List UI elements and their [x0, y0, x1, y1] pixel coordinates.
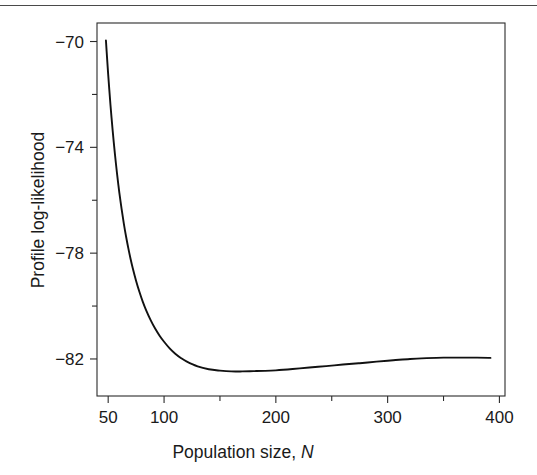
y-tick-label: −70	[55, 33, 84, 52]
plot-frame	[97, 23, 505, 396]
x-tick-label: 400	[485, 408, 513, 427]
plot-box	[97, 23, 505, 396]
y-tick-label: −82	[55, 350, 84, 369]
y-axis: −70−74−78−82	[55, 33, 97, 369]
x-tick-label: 200	[262, 408, 290, 427]
figure-root: −70−74−78−82 50100200300400 Profile log-…	[0, 0, 537, 475]
x-axis: 50100200300400	[99, 396, 514, 427]
y-axis-title: Profile log-likelihood	[28, 132, 48, 289]
x-axis-title: Population size, N	[172, 442, 314, 462]
x-tick-label: 100	[150, 408, 178, 427]
profile-loglikelihood-curve	[106, 40, 491, 371]
y-tick-label: −78	[55, 244, 84, 263]
x-axis-title-words: Population size,	[172, 442, 296, 462]
y-tick-label: −74	[55, 138, 84, 157]
x-tick-label: 50	[99, 408, 118, 427]
x-tick-label: 300	[373, 408, 401, 427]
x-axis-title-symbol: N	[301, 442, 314, 462]
profile-loglikelihood-chart: −70−74−78−82 50100200300400 Profile log-…	[0, 0, 537, 475]
